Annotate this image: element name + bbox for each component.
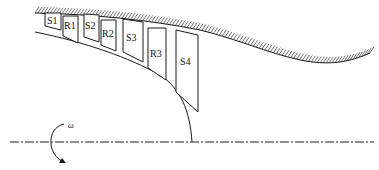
hatch-mark bbox=[282, 49, 286, 55]
hatch-mark bbox=[216, 28, 220, 34]
hatch-mark bbox=[158, 17, 162, 23]
hatch-mark bbox=[149, 16, 153, 22]
omega-label: ω bbox=[68, 121, 74, 130]
blade-label-s1: S1 bbox=[47, 15, 58, 26]
hatch-mark bbox=[268, 45, 272, 51]
hatch-mark bbox=[193, 23, 197, 29]
blade-label-s3: S3 bbox=[126, 32, 137, 43]
arrowhead-icon bbox=[59, 158, 66, 163]
hatch-mark bbox=[294, 52, 298, 58]
hatch-mark bbox=[187, 22, 191, 28]
hatch-mark bbox=[271, 46, 275, 52]
hatch-mark bbox=[208, 26, 212, 32]
hatch-mark bbox=[152, 16, 156, 22]
blade-s4[interactable]: S4 bbox=[176, 30, 198, 112]
blade-label-r2: R2 bbox=[102, 28, 114, 39]
hatch-mark bbox=[265, 44, 269, 50]
hatch-mark bbox=[211, 27, 215, 33]
hatch-mark bbox=[305, 55, 309, 61]
hatch-mark bbox=[279, 49, 283, 55]
blade-label-s2: S2 bbox=[85, 20, 96, 31]
blade-r2[interactable]: R2 bbox=[101, 20, 116, 51]
hatch-mark bbox=[248, 38, 252, 44]
hatch-mark bbox=[163, 18, 167, 24]
hatch-mark bbox=[219, 29, 223, 35]
hatch-mark bbox=[297, 53, 301, 59]
blade-s1[interactable]: S1 bbox=[45, 13, 61, 30]
hatch-mark bbox=[245, 37, 249, 43]
hatch-mark bbox=[253, 40, 257, 46]
hatch-mark bbox=[285, 50, 289, 56]
hatch-mark bbox=[161, 17, 165, 23]
hatch-mark bbox=[262, 43, 266, 49]
hatch-mark bbox=[146, 15, 150, 21]
hatch-mark bbox=[239, 36, 243, 42]
hatch-mark bbox=[234, 34, 238, 40]
hatch-mark bbox=[199, 24, 203, 30]
blade-row: S1 R1 S2 R2 S3 R3 S4 bbox=[45, 13, 198, 112]
hatch-mark bbox=[184, 21, 188, 27]
hatch-mark bbox=[276, 48, 280, 54]
hatch-mark bbox=[242, 36, 246, 42]
hatch-mark bbox=[172, 19, 176, 25]
blade-r3[interactable]: R3 bbox=[148, 28, 166, 80]
hatch-mark bbox=[213, 28, 217, 34]
turbine-diagram: S1 R1 S2 R2 S3 R3 S4 ω bbox=[0, 0, 379, 170]
hatch-mark bbox=[251, 39, 255, 45]
hatch-mark bbox=[169, 19, 173, 25]
hatch-mark bbox=[291, 52, 295, 58]
hatch-mark bbox=[259, 42, 263, 48]
hatch-mark bbox=[299, 54, 303, 60]
hatch-mark bbox=[155, 16, 159, 22]
blade-s2[interactable]: S2 bbox=[84, 14, 99, 42]
hatch-mark bbox=[143, 15, 147, 21]
blade-label-s4: S4 bbox=[180, 56, 191, 67]
hatch-mark bbox=[166, 18, 170, 24]
hatch-mark bbox=[231, 33, 235, 39]
hatch-mark bbox=[370, 47, 374, 53]
hatch-mark bbox=[288, 51, 292, 57]
hatch-mark bbox=[225, 31, 229, 37]
hatch-mark bbox=[205, 25, 209, 31]
blade-s3[interactable]: S3 bbox=[123, 19, 143, 62]
hatch-mark bbox=[178, 20, 182, 26]
hatch-mark bbox=[196, 23, 200, 29]
hatch-mark bbox=[202, 24, 206, 30]
hatch-mark bbox=[181, 21, 185, 27]
hatch-mark bbox=[228, 32, 232, 38]
hatch-mark bbox=[256, 41, 260, 47]
hatch-mark bbox=[222, 30, 226, 36]
blade-label-r3: R3 bbox=[150, 48, 162, 59]
hatch-mark bbox=[236, 35, 240, 41]
hatch-mark bbox=[308, 55, 312, 61]
hatch-mark bbox=[190, 22, 194, 28]
hatch-mark bbox=[175, 20, 179, 26]
hatch-mark bbox=[273, 47, 277, 53]
blade-label-r1: R1 bbox=[64, 20, 76, 31]
hatch-mark bbox=[302, 54, 306, 60]
